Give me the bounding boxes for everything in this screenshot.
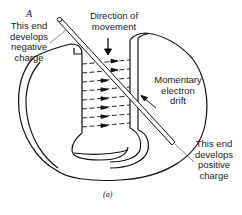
label-line: This end [3,21,55,32]
label-line: drift [148,96,208,107]
electron-drift-label: Momentary electron drift [148,75,208,107]
label-line: Direction of [78,11,150,22]
label-line: negative [3,42,55,53]
label-line: This end [188,139,240,150]
label-line: charge [3,53,55,64]
label-line: movement [78,22,150,33]
positive-end-label: This end develops positive charge [188,139,240,181]
label-line: Momentary [148,75,208,86]
direction-label: Direction of movement [78,11,150,32]
figure-caption: (a) [103,190,112,199]
negative-end-label: This end develops negative charge [3,21,55,63]
label-line: charge [188,171,240,182]
direction-arrow [105,38,112,55]
point-label-a: A [26,8,32,19]
label-line: positive [188,160,240,171]
